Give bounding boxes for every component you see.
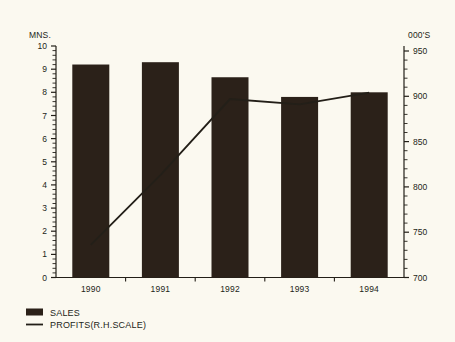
svg-text:1994: 1994 bbox=[359, 284, 379, 294]
bar-1993 bbox=[281, 97, 318, 278]
svg-text:8: 8 bbox=[42, 87, 47, 97]
bar-1990 bbox=[72, 65, 109, 278]
svg-text:1992: 1992 bbox=[220, 284, 240, 294]
svg-text:1990: 1990 bbox=[81, 284, 101, 294]
svg-text:0: 0 bbox=[42, 273, 47, 283]
bars-group bbox=[72, 62, 387, 277]
left-axis-ticks: 10 9 8 7 6 5 4 3 2 1 0 bbox=[38, 41, 56, 283]
svg-text:6: 6 bbox=[42, 134, 47, 144]
legend-swatch-sales bbox=[26, 309, 43, 316]
right-axis-ticks: 950 900 850 800 750 700 bbox=[404, 46, 427, 283]
svg-text:7: 7 bbox=[42, 111, 47, 121]
svg-text:3: 3 bbox=[42, 203, 47, 213]
svg-text:900: 900 bbox=[413, 91, 427, 101]
right-axis-unit-label: 000'S bbox=[408, 30, 431, 40]
svg-text:1: 1 bbox=[42, 249, 47, 259]
chart-legend: SALES PROFITS(R.H.SCALE) bbox=[26, 308, 146, 330]
bar-1994 bbox=[351, 92, 388, 277]
svg-text:800: 800 bbox=[413, 182, 427, 192]
svg-text:2: 2 bbox=[42, 226, 47, 236]
chart-container: MNS. 000'S 10 9 8 7 6 5 4 3 2 1 0 bbox=[0, 0, 455, 342]
legend-label-profits: PROFITS(R.H.SCALE) bbox=[50, 320, 146, 330]
svg-text:10: 10 bbox=[38, 41, 48, 51]
svg-text:4: 4 bbox=[42, 180, 47, 190]
category-labels: 1990 1991 1992 1993 1994 bbox=[81, 284, 379, 294]
svg-text:700: 700 bbox=[413, 273, 427, 283]
svg-text:1993: 1993 bbox=[290, 284, 310, 294]
bar-line-chart: MNS. 000'S 10 9 8 7 6 5 4 3 2 1 0 bbox=[0, 0, 455, 342]
svg-text:9: 9 bbox=[42, 64, 47, 74]
svg-text:1991: 1991 bbox=[151, 284, 171, 294]
bar-1991 bbox=[142, 62, 179, 277]
left-axis-unit-label: MNS. bbox=[29, 30, 51, 40]
svg-text:850: 850 bbox=[413, 137, 427, 147]
bar-1992 bbox=[212, 77, 249, 277]
legend-label-sales: SALES bbox=[50, 308, 80, 318]
svg-text:950: 950 bbox=[413, 46, 427, 56]
svg-text:5: 5 bbox=[42, 157, 47, 167]
svg-text:750: 750 bbox=[413, 227, 427, 237]
